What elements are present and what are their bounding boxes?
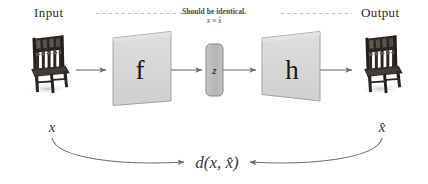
note-text: Should be identical. bbox=[182, 7, 246, 16]
distance-label: d(x, x̂) bbox=[195, 153, 239, 172]
var-output-label: x̂ bbox=[378, 119, 386, 135]
latent-glyph: z bbox=[211, 64, 217, 76]
decoder-block: h bbox=[262, 32, 320, 102]
latent-code-block: z bbox=[206, 44, 223, 96]
var-input-label: x bbox=[48, 119, 56, 135]
input-label: Input bbox=[34, 5, 63, 20]
diagram-canvas: Input Should be identical. x ≈ x̂ Output… bbox=[0, 0, 428, 184]
output-label: Output bbox=[361, 5, 400, 20]
encoder-glyph: f bbox=[136, 55, 145, 85]
note-math: x ≈ x̂ bbox=[206, 16, 222, 25]
edge-output-to-distance bbox=[250, 138, 382, 163]
chair-photo-output bbox=[359, 35, 402, 94]
decoder-glyph: h bbox=[285, 55, 299, 85]
encoder-block: f bbox=[113, 32, 171, 106]
edge-input-to-distance bbox=[52, 138, 184, 163]
chair-photo-input bbox=[26, 35, 69, 94]
